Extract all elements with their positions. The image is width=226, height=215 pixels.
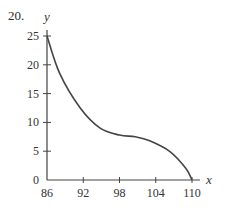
- y-axis-label: y: [42, 9, 50, 24]
- y-tick-label: 10: [27, 115, 39, 129]
- y-tick-label: 15: [27, 87, 39, 101]
- y-tick-label: 0: [33, 173, 39, 187]
- y-tick-label: 20: [27, 58, 39, 72]
- x-axis-label: x: [205, 172, 212, 187]
- y-tick-label: 5: [33, 144, 39, 158]
- x-tick-label: 92: [77, 186, 89, 200]
- y-tick-label: 25: [27, 29, 39, 43]
- data-curve: [47, 36, 192, 180]
- x-tick-label: 86: [41, 186, 53, 200]
- chart-plot: 8692981041100510152025 x y: [0, 0, 226, 215]
- x-tick-label: 104: [147, 186, 165, 200]
- x-tick-label: 98: [114, 186, 126, 200]
- x-tick-label: 110: [183, 186, 201, 200]
